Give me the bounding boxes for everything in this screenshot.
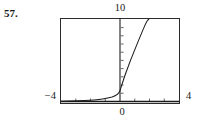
exercise-number-label: 57. [4,6,18,20]
y-max-label: 10 [60,2,180,14]
origin-label: 0 [98,106,146,118]
x-min-label: −4 [26,90,56,102]
x-max-label: 4 [186,90,210,102]
graph-plot-area [61,19,179,103]
exponential-curve [61,19,149,101]
figure-container: 57. 10 −4 4 0 [0,0,215,126]
graph-viewing-window [60,18,180,104]
